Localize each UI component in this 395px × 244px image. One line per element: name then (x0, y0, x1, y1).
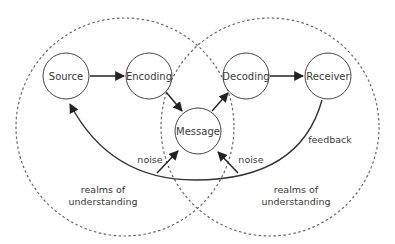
realms-right-line1: realms of (274, 184, 319, 195)
node-encoding-label: Encoding (126, 71, 172, 82)
realms-left-line1: realms of (81, 184, 126, 195)
realms-left-line2: understanding (68, 196, 137, 207)
node-encoding: Encoding (126, 53, 172, 99)
node-source: Source (43, 53, 89, 99)
feedback-label: feedback (308, 134, 352, 145)
noise-right-label: noise (238, 154, 263, 165)
arrow-noise-right (218, 152, 238, 173)
node-message: Message (175, 108, 221, 154)
node-receiver-label: Receiver (306, 71, 350, 82)
realms-right-line2: understanding (261, 196, 330, 207)
noise-left-label: noise (137, 154, 162, 165)
node-receiver: Receiver (305, 53, 351, 99)
node-source-label: Source (49, 71, 83, 82)
communication-model-diagram: Source Encoding Message Decoding Receive… (0, 0, 395, 244)
node-message-label: Message (176, 126, 220, 137)
arrow-encoding-to-message (166, 92, 182, 111)
node-decoding-label: Decoding (222, 71, 269, 82)
arrow-message-to-decoding (212, 93, 228, 111)
node-decoding: Decoding (222, 53, 269, 99)
